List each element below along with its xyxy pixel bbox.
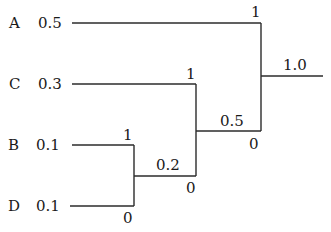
merge-c-sum: 0.5 bbox=[220, 112, 244, 130]
leaf-c-prob: 0.3 bbox=[38, 75, 62, 93]
leaf-b-symbol: B bbox=[8, 136, 19, 154]
leaf-d-prob: 0.1 bbox=[36, 197, 60, 215]
leaf-c-symbol: C bbox=[9, 75, 20, 93]
leaf-d-symbol: D bbox=[8, 197, 20, 215]
leaf-b-prob: 0.1 bbox=[36, 136, 60, 154]
root-lower-bit: 0 bbox=[249, 135, 259, 153]
merge-bd-upper-bit: 1 bbox=[123, 126, 133, 144]
merge-bd-sum: 0.2 bbox=[156, 156, 180, 174]
huffman-tree-diagram: A 0.5 C 0.3 B 0.1 D 0.1 1 0 0.2 1 0 0.5 … bbox=[0, 0, 331, 232]
merge-c-upper-bit: 1 bbox=[186, 65, 196, 83]
root-sum: 1.0 bbox=[283, 56, 307, 74]
root-upper-bit: 1 bbox=[251, 3, 261, 21]
leaf-a-symbol: A bbox=[8, 14, 20, 32]
merge-bd-lower-bit: 0 bbox=[123, 209, 133, 227]
leaf-a-prob: 0.5 bbox=[38, 14, 62, 32]
merge-c-lower-bit: 0 bbox=[186, 179, 196, 197]
